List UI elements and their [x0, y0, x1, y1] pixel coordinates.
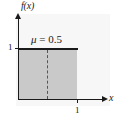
x-axis-arrow-icon [102, 96, 108, 102]
x-axis-line [18, 99, 104, 100]
x-axis-tick-label: 1 [75, 105, 80, 116]
x-axis-label: x [109, 92, 113, 103]
y-axis-tick-label: 1 [8, 42, 13, 53]
mean-annotation: μ = 0.5 [31, 33, 62, 45]
mean-dashed-line [47, 50, 48, 99]
x-axis-tick-mark [77, 99, 78, 103]
shaded-density-area [19, 50, 77, 99]
y-axis-line [18, 18, 19, 99]
y-axis-arrow-icon [15, 13, 21, 19]
y-axis-label: f(x) [21, 0, 34, 11]
uniform-distribution-figure: f(x) x 1 1 μ = 0.5 [0, 0, 118, 124]
y-axis-tick-mark [15, 48, 19, 49]
mean-value: = 0.5 [37, 33, 62, 45]
density-curve-line [18, 48, 78, 50]
